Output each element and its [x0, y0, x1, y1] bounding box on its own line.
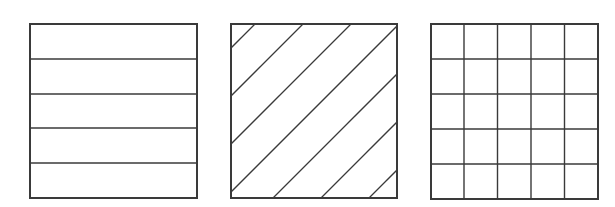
square-outline: [30, 24, 197, 198]
square-outline: [431, 24, 598, 199]
diagonal-line: [207, 0, 567, 207]
diagonal-line: [207, 0, 279, 72]
panel-grid: [431, 24, 598, 199]
pattern-figure: [0, 0, 615, 207]
diagonal-line: [207, 0, 519, 207]
diagonal-line: [207, 0, 327, 120]
panel-horizontal-lines: [30, 24, 197, 198]
diagonal-line: [207, 0, 375, 168]
panel-diagonal-lines: [207, 0, 567, 207]
